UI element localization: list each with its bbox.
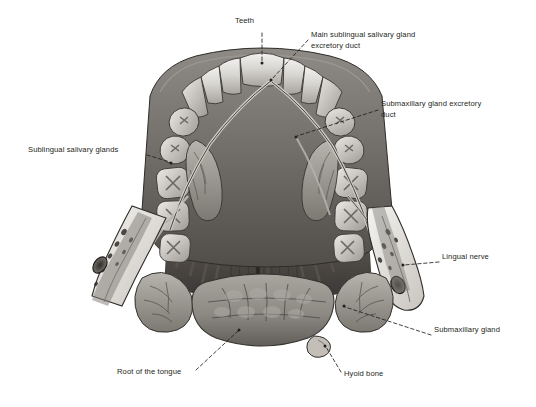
dot-sublingual-glands xyxy=(170,162,173,165)
dot-teeth xyxy=(261,62,264,65)
dot-root-of-tongue xyxy=(238,329,241,332)
label-lingual-nerve: Lingual nerve xyxy=(442,252,489,263)
dot-main-sublingual-duct xyxy=(270,79,273,82)
leader-hyoid-bone xyxy=(326,347,341,372)
dot-lingual-nerve xyxy=(402,264,405,267)
root-of-tongue-lobules xyxy=(192,274,334,346)
label-root-of-tongue: Root of the tongue xyxy=(117,367,181,378)
dot-hyoid-bone xyxy=(324,345,327,348)
label-teeth: Teeth xyxy=(235,16,254,27)
anatomy-illustration xyxy=(0,0,536,407)
label-submaxillary-gland: Submaxillary gland xyxy=(434,325,500,336)
label-sublingual-glands: Sublingual salivary glands xyxy=(28,145,118,156)
anatomical-figure: Teeth Main sublingual salivary gland exc… xyxy=(0,0,536,407)
label-hyoid-bone: Hyoid bone xyxy=(344,369,383,380)
dot-submaxillary-gland xyxy=(343,305,346,308)
label-main-sublingual-duct: Main sublingual salivary gland excretory… xyxy=(311,30,415,52)
label-submaxillary-duct: Submaxillary gland excretory duct xyxy=(381,99,481,121)
hyoid-bone-body xyxy=(307,336,331,357)
dot-submaxillary-duct xyxy=(295,136,298,139)
